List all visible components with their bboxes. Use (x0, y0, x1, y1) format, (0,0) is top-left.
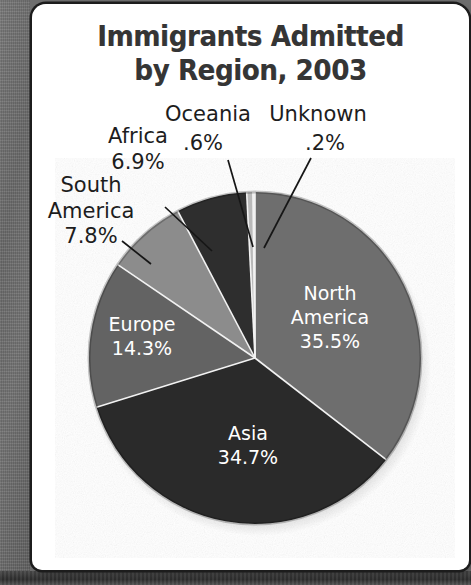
slice-value-africa: 6.9% (111, 150, 164, 174)
slice-value-south-america: 7.8% (64, 224, 117, 248)
pie-chart: North America 35.5% Asia 34.7% Europe 14… (32, 4, 469, 570)
slice-label-oceania: Oceania (165, 102, 251, 126)
slice-value-unknown: .2% (305, 131, 345, 155)
slice-label-africa: Africa (108, 124, 168, 148)
slice-label-north-america-line1: North (303, 282, 356, 304)
slice-label-asia: Asia (228, 422, 268, 444)
slice-label-unknown: Unknown (269, 102, 366, 126)
scan-border-bottom (0, 571, 471, 585)
chart-card: Immigrants Admitted by Region, 2003 (32, 4, 469, 570)
slice-value-oceania: .6% (183, 131, 223, 155)
slice-label-south-america-line1: South (60, 173, 121, 197)
slice-value-asia: 34.7% (218, 446, 278, 468)
figure-root: Immigrants Admitted by Region, 2003 (0, 0, 471, 585)
slice-value-europe: 14.3% (112, 337, 172, 359)
slice-label-europe: Europe (109, 313, 176, 335)
slice-value-north-america: 35.5% (300, 330, 360, 352)
scan-border-left (0, 0, 30, 585)
slice-label-south-america-line2: America (48, 199, 135, 223)
slice-label-north-america-line2: America (291, 306, 369, 328)
